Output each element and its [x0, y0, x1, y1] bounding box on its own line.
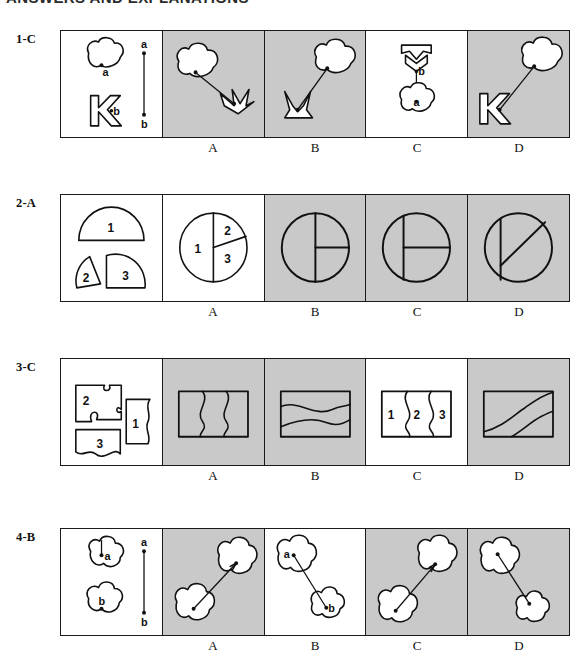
svg-text:2: 2 — [414, 407, 421, 421]
svg-text:a: a — [414, 96, 421, 108]
option-letter-1-D: D — [468, 140, 570, 160]
row-panels-1: a b a b — [60, 30, 570, 138]
option-letter-1-B: B — [264, 140, 366, 160]
option-letter-1-A: A — [162, 140, 264, 160]
svg-text:a: a — [283, 548, 290, 560]
option-letter-4-A: A — [162, 638, 264, 658]
option-panel-1-D[interactable] — [467, 31, 569, 137]
svg-text:2: 2 — [83, 271, 90, 285]
option-panel-4-B[interactable]: a b — [264, 529, 366, 635]
row-answer-label-1: 1-C — [16, 32, 36, 47]
option-panel-4-A[interactable] — [162, 529, 264, 635]
option-letter-3-A: A — [162, 468, 264, 488]
option-letter-2-C: C — [366, 304, 468, 324]
option-panel-1-B[interactable] — [264, 31, 366, 137]
svg-text:b: b — [328, 602, 335, 614]
option-letter-2-A: A — [162, 304, 264, 324]
svg-text:3: 3 — [224, 252, 231, 266]
svg-text:a: a — [141, 38, 148, 50]
option-letter-4-B: B — [264, 638, 366, 658]
option-panel-3-A[interactable] — [162, 359, 264, 465]
option-panel-4-C[interactable] — [365, 529, 467, 635]
svg-text:3: 3 — [122, 269, 129, 283]
row-answer-label-2: 2-A — [16, 196, 36, 211]
option-letter-4-C: C — [366, 638, 468, 658]
svg-text:1: 1 — [132, 417, 139, 431]
svg-text:b: b — [113, 105, 120, 117]
svg-text:b: b — [141, 616, 148, 628]
option-panel-1-C[interactable]: b a — [365, 31, 467, 137]
row-panels-2: 1 2 3 1 2 3 — [60, 194, 570, 302]
option-letter-row-1: A B C D — [60, 140, 570, 160]
option-panel-3-C[interactable]: 1 2 3 — [365, 359, 467, 465]
svg-text:b: b — [141, 118, 148, 130]
option-letter-2-B: B — [264, 304, 366, 324]
row-panels-3: 2 1 3 — [60, 358, 570, 466]
svg-text:3: 3 — [440, 407, 447, 421]
option-panel-2-B[interactable] — [264, 195, 366, 301]
option-letter-row-3: A B C D — [60, 468, 570, 488]
option-letter-row-4: A B C D — [60, 638, 570, 658]
row-answer-label-3: 3-C — [16, 360, 36, 375]
option-panel-3-B[interactable] — [264, 359, 366, 465]
option-panel-3-D[interactable] — [467, 359, 569, 465]
option-panel-4-D[interactable] — [467, 529, 569, 635]
svg-text:a: a — [104, 550, 111, 562]
prompt-panel-3: 2 1 3 — [61, 359, 162, 465]
svg-text:2: 2 — [83, 394, 90, 408]
option-letter-3-C: C — [366, 468, 468, 488]
svg-text:b: b — [99, 595, 106, 607]
option-panel-2-A[interactable]: 1 2 3 — [162, 195, 264, 301]
page-title: ANSWERS AND EXPLANATIONS — [6, 0, 249, 6]
option-panel-2-C[interactable] — [365, 195, 467, 301]
option-letter-2-D: D — [468, 304, 570, 324]
prompt-panel-4: a b a b — [61, 529, 162, 635]
option-letter-row-2: A B C D — [60, 304, 570, 324]
svg-text:2: 2 — [224, 224, 231, 238]
row-panels-4: a b a b — [60, 528, 570, 636]
svg-text:a: a — [103, 66, 110, 78]
svg-text:1: 1 — [194, 241, 201, 255]
option-letter-3-D: D — [468, 468, 570, 488]
row-answer-label-4: 4-B — [16, 530, 35, 545]
svg-text:3: 3 — [97, 437, 104, 451]
option-letter-3-B: B — [264, 468, 366, 488]
option-letter-1-C: C — [366, 140, 468, 160]
svg-text:a: a — [141, 536, 148, 548]
prompt-panel-1: a b a b — [61, 31, 162, 137]
svg-text:1: 1 — [388, 407, 395, 421]
option-letter-4-D: D — [468, 638, 570, 658]
svg-text:b: b — [419, 65, 426, 77]
option-panel-2-D[interactable] — [467, 195, 569, 301]
prompt-panel-2: 1 2 3 — [61, 195, 162, 301]
svg-text:1: 1 — [107, 221, 114, 235]
option-panel-1-A[interactable] — [162, 31, 264, 137]
